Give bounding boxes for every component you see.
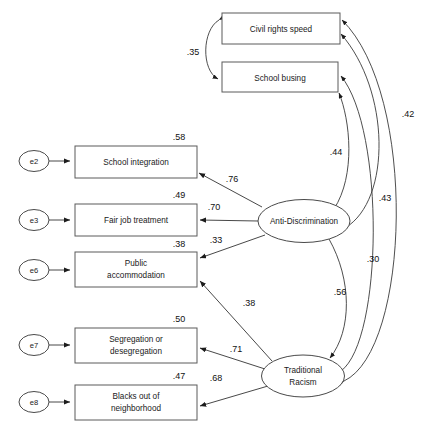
node-school-busing[interactable]: School busing bbox=[222, 62, 338, 92]
node-label-fair-job-treatment: Fair job treatment bbox=[104, 216, 169, 225]
edge-covariance-top bbox=[206, 20, 219, 79]
node-label-e8: e8 bbox=[30, 398, 38, 407]
node-box-public-accommodation[interactable] bbox=[75, 252, 197, 287]
node-error-e3[interactable]: e3 bbox=[19, 210, 49, 231]
error-variance-fair-job-treatment: .49 bbox=[173, 190, 186, 200]
node-box-segregation-desegregation[interactable] bbox=[75, 328, 197, 363]
path-coefficient-43: .43 bbox=[379, 193, 392, 203]
node-label-civil-rights-speed: Civil rights speed bbox=[250, 25, 313, 34]
edge-line-tr-blacks-out bbox=[200, 386, 268, 406]
node-public-accommodation[interactable]: Public accommodation .38 bbox=[75, 239, 197, 287]
node-error-e2[interactable]: e2 bbox=[19, 151, 49, 172]
node-error-e6[interactable]: e6 bbox=[19, 260, 49, 281]
node-ellipse-traditional-racism[interactable] bbox=[262, 355, 345, 397]
error-variance-blacks-out-of-neighborhood: .47 bbox=[173, 371, 186, 381]
path-coefficient-44: .44 bbox=[330, 147, 343, 157]
path-coefficient-42: .42 bbox=[402, 109, 415, 119]
error-variance-public-accommodation: .38 bbox=[173, 239, 186, 249]
node-box-blacks-out-of-neighborhood[interactable] bbox=[75, 385, 197, 420]
edge-line-ad-civil-rights bbox=[341, 34, 379, 228]
node-label-blacks-out-of-neighborhood: Blacks out of bbox=[113, 392, 161, 401]
edge-group-errors bbox=[49, 161, 70, 402]
path-coefficient-76: .76 bbox=[226, 174, 239, 184]
edge-group-anti-discrimination bbox=[199, 173, 265, 258]
node-label-school-integration: School integration bbox=[103, 158, 169, 167]
node-school-integration[interactable]: School integration .58 bbox=[75, 132, 197, 178]
node-label-e2: e2 bbox=[30, 157, 38, 166]
edge-line-tr-ad-covariance bbox=[329, 239, 346, 358]
error-variance-school-integration: .58 bbox=[173, 132, 186, 142]
path-coefficient-38: .38 bbox=[243, 298, 256, 308]
node-label-school-busing: School busing bbox=[254, 74, 306, 83]
node-label-traditional-racism: Traditional bbox=[284, 366, 322, 375]
node-label-e6: e6 bbox=[30, 266, 38, 275]
edge-line-ad-fair-job bbox=[200, 220, 258, 221]
path-coefficient-70: .70 bbox=[208, 202, 221, 212]
node-civil-rights-speed[interactable]: Civil rights speed bbox=[222, 13, 340, 44]
error-variance-segregation-desegregation: .50 bbox=[173, 314, 186, 324]
node-label-traditional-racism-line2: Racism bbox=[289, 378, 316, 387]
path-diagram: Civil rights speed School busing School … bbox=[0, 0, 435, 441]
node-anti-discrimination[interactable]: Anti-Discrimination bbox=[258, 200, 350, 243]
path-coefficient-68: .68 bbox=[210, 373, 223, 383]
node-label-e3: e3 bbox=[30, 216, 38, 225]
path-coefficient-30: .30 bbox=[367, 254, 380, 264]
node-segregation-desegregation[interactable]: Segregation or desegregation .50 bbox=[75, 314, 197, 363]
path-coefficient-33: .33 bbox=[210, 235, 223, 245]
node-error-e7[interactable]: e7 bbox=[19, 335, 49, 356]
node-error-e8[interactable]: e8 bbox=[19, 392, 49, 413]
node-label-segregation-desegregation-line2: desegregation bbox=[110, 347, 162, 356]
node-blacks-out-of-neighborhood[interactable]: Blacks out of neighborhood .47 bbox=[75, 371, 197, 420]
path-coefficient-35: .35 bbox=[187, 47, 200, 57]
node-label-anti-discrimination: Anti-Discrimination bbox=[270, 217, 339, 226]
node-label-public-accommodation: Public bbox=[125, 259, 147, 268]
node-label-segregation-desegregation: Segregation or bbox=[109, 335, 163, 344]
node-label-public-accommodation-line2: accommodation bbox=[107, 271, 165, 280]
path-coefficient-71: .71 bbox=[230, 344, 243, 354]
node-traditional-racism[interactable]: Traditional Racism bbox=[262, 355, 345, 397]
node-label-blacks-out-of-neighborhood-line2: neighborhood bbox=[111, 404, 162, 413]
node-label-e7: e7 bbox=[30, 341, 38, 350]
node-fair-job-treatment[interactable]: Fair job treatment .49 bbox=[75, 190, 197, 236]
edge-line-civil-busing bbox=[206, 20, 219, 79]
path-coefficient-56: .56 bbox=[334, 287, 347, 297]
